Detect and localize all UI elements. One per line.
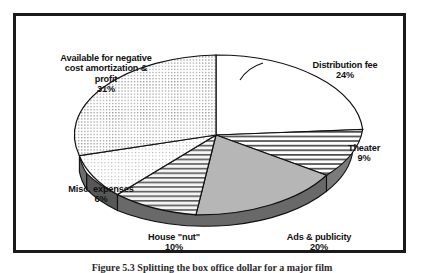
pie-label-ads-publicity-value: 20% (260, 242, 378, 253)
pie-label-theater: Theater 9% (325, 132, 403, 174)
pie-label-misc-expenses-value: 6% (38, 194, 164, 205)
pie-label-house-nut-text: House "nut" (148, 232, 200, 242)
pie-label-amortization-value: 31% (36, 84, 176, 95)
pie-label-amortization: Available for negative cost amortization… (36, 42, 176, 106)
pie-label-house-nut-value: 10% (119, 242, 229, 253)
pie-label-amortization-text: Available for negative cost amortization… (60, 53, 151, 84)
pie-label-misc-expenses-text: Misc. expenses (68, 184, 133, 194)
pie-label-ads-publicity: Ads & publicity 20% (260, 221, 378, 263)
pie-label-distribution-fee-value: 24% (284, 70, 406, 81)
figure-caption: Figure 5.3 Splitting the box office doll… (0, 262, 424, 273)
pie-label-theater-value: 9% (325, 153, 403, 164)
figure-frame: Available for negative cost amortization… (13, 13, 406, 253)
pie-chart: Available for negative cost amortization… (16, 16, 403, 250)
pie-label-house-nut: House "nut" 10% (119, 221, 229, 263)
pie-label-distribution-fee-text: Distribution fee (313, 60, 378, 70)
pie-label-misc-expenses: Misc. expenses 6% (38, 173, 164, 215)
pie-label-theater-text: Theater (348, 143, 380, 153)
pie-label-distribution-fee: Distribution fee 24% (284, 49, 406, 91)
pie-label-ads-publicity-text: Ads & publicity (287, 232, 352, 242)
